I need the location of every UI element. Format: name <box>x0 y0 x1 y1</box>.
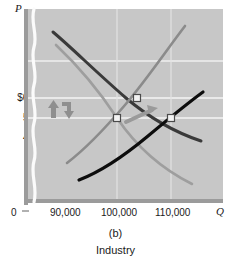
chart-figure: P Q $60 50 40 0 90,000 100,000 110,000 S… <box>0 0 231 259</box>
equilibrium-point-e0 <box>114 115 121 122</box>
equilibrium-point-e1 <box>134 95 141 102</box>
plot-area <box>0 0 231 259</box>
equilibrium-point-e2 <box>168 115 175 122</box>
y-axis-spine <box>24 9 28 205</box>
x-axis-spine <box>24 199 223 203</box>
